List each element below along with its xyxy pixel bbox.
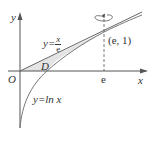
y-axis-arrow-icon — [18, 12, 23, 20]
tick-e-label: e — [101, 74, 106, 85]
curve-equation-label: y=ln x — [33, 94, 62, 105]
x-axis-arrow-icon — [140, 69, 148, 74]
point-e-1-label: (e, 1) — [108, 35, 131, 46]
origin-label: O — [8, 74, 16, 85]
diagram-canvas — [0, 0, 155, 141]
fraction-denominator: e — [56, 45, 60, 54]
line-equation-prefix: y= — [43, 37, 55, 49]
fraction: xe — [55, 35, 61, 54]
region-d-label: D — [41, 61, 49, 72]
x-axis-label: x — [138, 75, 143, 86]
y-axis-label: y — [11, 12, 16, 23]
line-equation-label: y=xe — [43, 35, 61, 54]
rotation-arrowhead-icon — [101, 14, 105, 19]
